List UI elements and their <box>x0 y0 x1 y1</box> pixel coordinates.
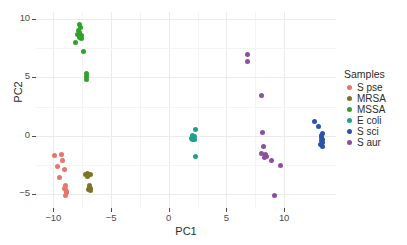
legend-dot-icon <box>347 85 352 90</box>
legend-item-label: E coli <box>357 115 381 126</box>
x-tick-label: −10 <box>45 212 61 223</box>
plot-panel <box>36 12 336 208</box>
data-point <box>259 93 264 98</box>
x-tick-label: −5 <box>106 212 117 223</box>
legend-item-s-sci[interactable]: S sci <box>344 126 406 137</box>
data-point <box>64 189 69 194</box>
gridline-horizontal-minor <box>36 107 336 108</box>
y-tick-mark <box>32 136 36 137</box>
gridline-vertical <box>111 12 112 208</box>
legend-key-icon <box>344 104 355 115</box>
legend-dot-icon <box>347 96 352 101</box>
scatter-plot-figure: −10−505101050−5 PC1 PC2 Samples S pseMRS… <box>0 0 407 245</box>
legend-dot-icon <box>347 118 352 123</box>
gridline-vertical-minor <box>82 12 83 208</box>
gridline-vertical <box>169 12 170 208</box>
y-axis-label: PC2 <box>12 62 24 122</box>
legend-key-icon <box>344 115 355 126</box>
data-point <box>245 52 250 57</box>
data-point <box>85 174 90 179</box>
legend-title: Samples <box>344 68 406 80</box>
gridline-horizontal <box>36 77 336 78</box>
legend-items: S pseMRSAMSSAE coliS sciS aur <box>344 82 406 148</box>
gridline-vertical <box>53 12 54 208</box>
data-point <box>260 130 265 135</box>
y-tick-mark <box>32 194 36 195</box>
y-tick-mark <box>32 19 36 20</box>
gridline-vertical <box>284 12 285 208</box>
legend-item-s-aur[interactable]: S aur <box>344 137 406 148</box>
legend-key-icon <box>344 93 355 104</box>
data-point <box>57 175 62 180</box>
legend-item-label: MSSA <box>357 104 385 115</box>
legend-key-icon <box>344 126 355 137</box>
gridline-horizontal-minor <box>36 165 336 166</box>
legend: Samples S pseMRSAMSSAE coliS sciS aur <box>344 68 406 148</box>
data-point <box>320 144 325 149</box>
gridline-vertical-minor <box>198 12 199 208</box>
x-axis-label: PC1 <box>36 225 336 237</box>
legend-item-mrsa[interactable]: MRSA <box>344 93 406 104</box>
data-point <box>59 152 64 157</box>
legend-item-e-coli[interactable]: E coli <box>344 115 406 126</box>
data-point <box>245 59 250 64</box>
gridline-vertical-minor <box>255 12 256 208</box>
data-point <box>312 119 317 124</box>
legend-item-mssa[interactable]: MSSA <box>344 104 406 115</box>
data-point <box>73 40 78 45</box>
legend-dot-icon <box>347 140 352 145</box>
legend-item-label: S aur <box>357 137 381 148</box>
legend-item-label: S sci <box>357 126 379 137</box>
x-tick-label: 0 <box>166 212 171 223</box>
data-point <box>278 163 283 168</box>
gridline-vertical-minor <box>140 12 141 208</box>
legend-item-label: S pse <box>357 82 383 93</box>
data-point <box>193 154 198 159</box>
x-tick-label: 10 <box>279 212 289 223</box>
data-point <box>60 158 65 163</box>
legend-key-icon <box>344 137 355 148</box>
gridline-horizontal <box>36 19 336 20</box>
gridline-horizontal <box>36 136 336 137</box>
data-point <box>269 158 274 163</box>
y-tick-mark <box>32 77 36 78</box>
data-point <box>84 77 89 82</box>
legend-key-icon <box>344 82 355 93</box>
gridline-vertical <box>226 12 227 208</box>
data-point <box>272 193 277 198</box>
gridline-horizontal <box>36 194 336 195</box>
legend-dot-icon <box>347 107 352 112</box>
data-point <box>81 49 86 54</box>
legend-dot-icon <box>347 129 352 134</box>
legend-item-label: MRSA <box>357 93 386 104</box>
data-point <box>87 185 92 190</box>
data-point <box>52 153 57 158</box>
data-point <box>62 167 67 172</box>
x-tick-label: 5 <box>224 212 229 223</box>
data-point <box>262 155 267 160</box>
legend-item-s-pse[interactable]: S pse <box>344 82 406 93</box>
data-point <box>261 144 266 149</box>
data-point <box>316 124 321 129</box>
data-point <box>79 36 84 41</box>
